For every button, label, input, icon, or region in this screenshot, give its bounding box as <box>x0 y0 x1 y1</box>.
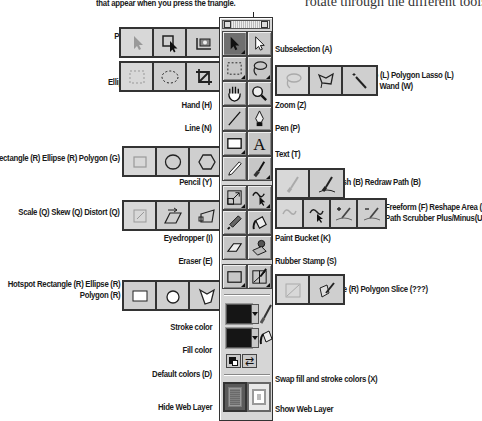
polygon-lasso-icon <box>315 71 337 91</box>
polygon-lasso-tool-option[interactable] <box>310 67 343 94</box>
flyout-triangle-icon <box>241 204 245 208</box>
line-tool[interactable] <box>222 106 247 131</box>
eraser-tool[interactable] <box>222 235 247 260</box>
fill-bucket-icon <box>259 327 273 347</box>
fill-color-swatch[interactable] <box>226 328 252 348</box>
reshape-area-icon <box>306 204 328 224</box>
stroke-color-dropdown[interactable] <box>251 304 259 324</box>
eraser-icon <box>225 238 244 257</box>
eyedropper-icon <box>225 213 244 232</box>
pointer-flyout <box>119 27 222 58</box>
brush-tool[interactable] <box>247 156 272 181</box>
lasso-tool[interactable] <box>247 56 272 81</box>
scale-tool-option[interactable] <box>124 202 157 229</box>
ellipse-tool-option[interactable] <box>157 148 190 175</box>
fill-color-dropdown[interactable] <box>251 328 259 348</box>
pointer-icon <box>126 33 148 53</box>
ellipse-marquee-tool-option[interactable] <box>154 63 187 90</box>
default-colors-icon-back <box>232 360 238 366</box>
pen-tool[interactable] <box>247 106 272 131</box>
brush-tool-option[interactable] <box>277 170 310 197</box>
label-zoom: Zoom (Z) <box>275 99 306 110</box>
flyout-triangle-icon <box>266 175 270 179</box>
label-line-tool: Line (N) <box>185 122 212 133</box>
rubber-stamp-icon <box>250 238 269 257</box>
slice-tool[interactable] <box>247 264 272 289</box>
marquee-tool[interactable] <box>222 56 247 81</box>
pointer-tool-option[interactable] <box>121 29 154 56</box>
tools-panel: A ⇄ <box>219 17 273 421</box>
label-subselection: Subselection (A) <box>275 43 332 54</box>
freeform-tool[interactable] <box>247 185 272 210</box>
lasso-tool-option[interactable] <box>277 67 310 94</box>
slice-tool-option[interactable] <box>277 276 310 303</box>
hexagon-icon <box>196 152 218 172</box>
zoom-tool[interactable] <box>247 81 272 106</box>
select-behind-icon <box>159 33 181 53</box>
label-line: Hotspot Rectangle (R) Ellipse (R) <box>7 278 120 289</box>
hand-tool[interactable] <box>222 81 247 106</box>
pointer-tool[interactable] <box>222 31 247 56</box>
text-icon: A <box>250 134 269 153</box>
magic-wand-icon <box>349 71 371 91</box>
path-scrubber-plus-icon <box>333 204 355 224</box>
hotspot-rect-tool-option[interactable] <box>124 282 157 309</box>
polygon-slice-tool-option[interactable] <box>310 276 343 303</box>
path-scrubber-minus-tool-option[interactable] <box>358 200 385 227</box>
rubber-stamp-tool[interactable] <box>247 235 272 260</box>
scale-icon <box>129 206 151 226</box>
show-web-layer-button[interactable] <box>247 382 271 412</box>
hotspot-tool[interactable] <box>222 264 247 289</box>
select-behind-tool-option[interactable] <box>154 29 187 56</box>
stroke-pencil-icon <box>260 304 272 324</box>
distort-icon <box>196 206 218 226</box>
magic-wand-tool-option[interactable] <box>343 67 376 94</box>
divider <box>224 294 270 295</box>
line-icon <box>225 109 244 128</box>
hide-web-layer-button[interactable] <box>223 382 247 412</box>
crop-tool-option[interactable] <box>187 63 220 90</box>
label-hide-web-layer: Hide Web Layer <box>158 401 212 412</box>
hotspot-polygon-icon <box>196 286 218 306</box>
swap-colors-button[interactable]: ⇄ <box>242 354 257 368</box>
skew-tool-option[interactable] <box>157 202 190 229</box>
pencil-tool[interactable] <box>222 156 247 181</box>
path-scrubber-plus-tool-option[interactable] <box>331 200 358 227</box>
redraw-path-tool-option[interactable] <box>310 170 343 197</box>
rectangle-tool-option[interactable] <box>124 148 157 175</box>
flyout-triangle-icon <box>241 75 245 79</box>
rect-marquee-tool-option[interactable] <box>121 63 154 90</box>
crop-icon <box>193 67 215 87</box>
label-transform-group: Scale (Q) Skew (Q) Distort (Q) <box>19 206 120 217</box>
freeform-tool-option[interactable] <box>277 200 304 227</box>
subselection-tool[interactable] <box>247 31 272 56</box>
label-freeform-group: Freeform (F) Reshape Area (F) Path Scrub… <box>385 201 482 223</box>
web-layer-hidden-icon <box>229 388 241 406</box>
eyedropper-tool[interactable] <box>222 210 247 235</box>
close-box-icon[interactable] <box>224 21 231 28</box>
label-fill-color: Fill color <box>182 344 212 355</box>
export-area-tool-option[interactable] <box>187 29 220 56</box>
slice-flyout <box>275 274 345 305</box>
hotspot-ellipse-tool-option[interactable] <box>157 282 190 309</box>
text-tool[interactable]: A <box>247 131 272 156</box>
magnifier-icon <box>250 84 269 103</box>
panel-titlebar[interactable] <box>222 20 270 29</box>
ellipse-icon <box>162 152 184 172</box>
export-area-icon <box>193 33 215 53</box>
pencil-icon <box>225 159 244 178</box>
swap-icon: ⇄ <box>245 355 254 367</box>
label-eraser: Eraser (E) <box>178 255 212 266</box>
flyout-triangle-icon <box>241 50 245 54</box>
reshape-area-tool-option[interactable] <box>304 200 331 227</box>
label-pencil: Pencil (Y) <box>179 176 212 187</box>
rectangle-tool[interactable] <box>222 131 247 156</box>
marquee-flyout <box>119 61 222 92</box>
hotspot-flyout <box>122 280 225 311</box>
stroke-color-swatch[interactable] <box>226 304 252 324</box>
panel-menu-icon[interactable] <box>261 21 268 28</box>
scale-tool[interactable] <box>222 185 247 210</box>
flyout-triangle-icon <box>241 283 245 287</box>
default-colors-button[interactable] <box>226 354 241 368</box>
paint-bucket-tool[interactable] <box>247 210 272 235</box>
